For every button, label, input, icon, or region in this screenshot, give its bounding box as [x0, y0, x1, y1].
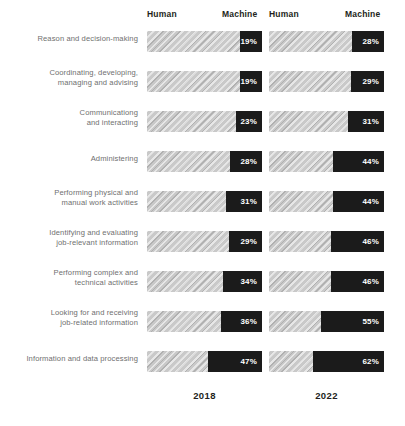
- header-machine-2018: Machine: [222, 9, 257, 19]
- machine-segment-2018-5: 29%: [229, 231, 262, 252]
- row-label: Administering: [0, 154, 138, 164]
- row-label-line-1: Identifying and evaluating: [0, 228, 138, 238]
- bar-2022-5: 46%: [269, 231, 384, 252]
- machine-segment-2018-7: 36%: [221, 311, 262, 332]
- machine-segment-2022-4: 44%: [333, 191, 384, 212]
- value-label: 31%: [362, 117, 384, 126]
- bar-2022-2: 31%: [269, 111, 384, 132]
- machine-segment-2022-5: 46%: [331, 231, 384, 252]
- machine-segment-2022-2: 31%: [348, 111, 384, 132]
- row-label: Coordinating, developing,managing and ad…: [0, 68, 138, 87]
- bar-2018-3: 28%: [147, 151, 262, 172]
- machine-segment-2018-2: 23%: [236, 111, 262, 132]
- machine-segment-2022-8: 62%: [313, 351, 384, 372]
- bar-2018-5: 29%: [147, 231, 262, 252]
- value-label: 31%: [240, 197, 262, 206]
- year-label-2018: 2018: [147, 390, 262, 401]
- table-row: Administering28%44%: [0, 151, 405, 172]
- row-label-line-1: Performing complex and: [0, 268, 138, 278]
- table-row: Looking for and receivingjob-related inf…: [0, 311, 405, 332]
- machine-segment-2018-0: 19%: [240, 31, 262, 52]
- machine-segment-2022-6: 46%: [331, 271, 384, 292]
- table-row: Coordinating, developing,managing and ad…: [0, 71, 405, 92]
- row-label-line-2: manual work activities: [0, 198, 138, 208]
- table-row: Performing physical andmanual work activ…: [0, 191, 405, 212]
- row-label-line-1: Information and data processing: [0, 354, 138, 364]
- machine-segment-2022-3: 44%: [333, 151, 384, 172]
- value-label: 47%: [240, 357, 262, 366]
- value-label: 46%: [362, 237, 384, 246]
- row-label-line-1: Administering: [0, 154, 138, 164]
- machine-segment-2018-6: 34%: [223, 271, 262, 292]
- bar-2022-8: 62%: [269, 351, 384, 372]
- header-human-2022: Human: [269, 9, 299, 19]
- row-label-line-1: Looking for and receiving: [0, 308, 138, 318]
- bar-2018-8: 47%: [147, 351, 262, 372]
- row-label: Communicationgand interacting: [0, 108, 138, 127]
- row-label-line-1: Communicationg: [0, 108, 138, 118]
- table-row: Performing complex andtechnical activiti…: [0, 271, 405, 292]
- table-row: Reason and decision-making19%28%: [0, 31, 405, 52]
- value-label: 46%: [362, 277, 384, 286]
- column-headers: Human Machine Human Machine: [0, 9, 405, 23]
- header-human-2018: Human: [147, 9, 177, 19]
- value-label: 44%: [362, 157, 384, 166]
- bar-2022-7: 55%: [269, 311, 384, 332]
- value-label: 19%: [240, 37, 262, 46]
- row-label-line-2: technical activities: [0, 278, 138, 288]
- row-label-line-2: job-relevant information: [0, 238, 138, 248]
- machine-segment-2018-1: 19%: [240, 71, 262, 92]
- header-machine-2022: Machine: [345, 9, 380, 19]
- value-label: 19%: [240, 77, 262, 86]
- table-row: Identifying and evaluatingjob-relevant i…: [0, 231, 405, 252]
- table-row: Information and data processing47%62%: [0, 351, 405, 372]
- row-label: Looking for and receivingjob-related inf…: [0, 308, 138, 327]
- value-label: 55%: [362, 317, 384, 326]
- machine-segment-2022-0: 28%: [352, 31, 384, 52]
- row-label: Performing complex andtechnical activiti…: [0, 268, 138, 287]
- value-label: 62%: [362, 357, 384, 366]
- stacked-bar-chart: Human Machine Human Machine Reason and d…: [0, 0, 405, 426]
- value-label: 29%: [240, 237, 262, 246]
- bar-2022-4: 44%: [269, 191, 384, 212]
- row-label-line-1: Reason and decision-making: [0, 34, 138, 44]
- bar-2022-3: 44%: [269, 151, 384, 172]
- bar-2018-0: 19%: [147, 31, 262, 52]
- row-label-line-1: Coordinating, developing,: [0, 68, 138, 78]
- bar-2018-7: 36%: [147, 311, 262, 332]
- machine-segment-2018-4: 31%: [226, 191, 262, 212]
- bar-2022-1: 29%: [269, 71, 384, 92]
- bar-2018-6: 34%: [147, 271, 262, 292]
- row-label-line-2: managing and advising: [0, 78, 138, 88]
- value-label: 36%: [240, 317, 262, 326]
- row-label: Reason and decision-making: [0, 34, 138, 44]
- row-label: Performing physical andmanual work activ…: [0, 188, 138, 207]
- value-label: 44%: [362, 197, 384, 206]
- bar-2022-6: 46%: [269, 271, 384, 292]
- bar-2018-1: 19%: [147, 71, 262, 92]
- table-row: Communicationgand interacting23%31%: [0, 111, 405, 132]
- row-label: Identifying and evaluatingjob-relevant i…: [0, 228, 138, 247]
- row-label-line-1: Performing physical and: [0, 188, 138, 198]
- value-label: 34%: [240, 277, 262, 286]
- value-label: 28%: [362, 37, 384, 46]
- row-label-line-2: and interacting: [0, 118, 138, 128]
- value-label: 28%: [240, 157, 262, 166]
- machine-segment-2018-3: 28%: [230, 151, 262, 172]
- value-label: 23%: [240, 117, 262, 126]
- row-label-line-2: job-related information: [0, 318, 138, 328]
- machine-segment-2022-1: 29%: [351, 71, 384, 92]
- value-label: 29%: [362, 77, 384, 86]
- row-label: Information and data processing: [0, 354, 138, 364]
- bar-2018-2: 23%: [147, 111, 262, 132]
- machine-segment-2022-7: 55%: [321, 311, 384, 332]
- bar-2022-0: 28%: [269, 31, 384, 52]
- machine-segment-2018-8: 47%: [208, 351, 262, 372]
- bar-2018-4: 31%: [147, 191, 262, 212]
- year-label-2022: 2022: [269, 390, 384, 401]
